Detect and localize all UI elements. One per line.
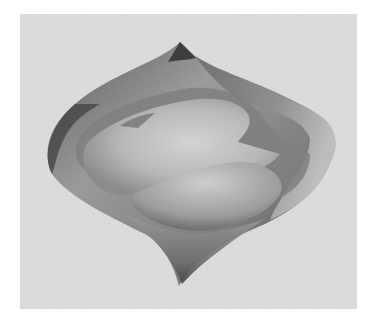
surface-rendering — [20, 14, 357, 309]
figure-panel — [20, 14, 357, 309]
